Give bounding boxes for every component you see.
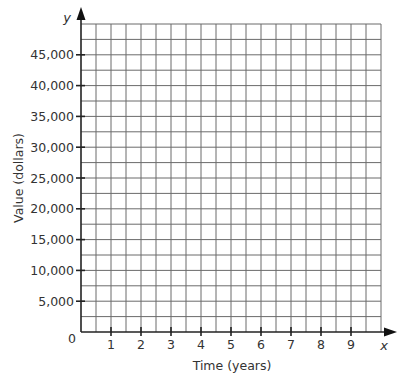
y-tick-label: 35,000 [30, 109, 74, 124]
x-tick-label: 7 [287, 337, 295, 352]
grid-lines [81, 24, 381, 332]
x-tick-label: 4 [197, 337, 205, 352]
x-tick-label: 2 [137, 337, 145, 352]
y-tick-label: 5,000 [38, 294, 74, 309]
y-tick-label: 15,000 [30, 232, 74, 247]
y-axis-title: Value (dollars) [11, 133, 26, 223]
x-tick-label: 1 [107, 337, 115, 352]
y-tick-label: 10,000 [30, 263, 74, 278]
x-axis-variable: x [379, 338, 388, 353]
x-tick-label: 3 [167, 337, 175, 352]
origin-label: 0 [68, 331, 76, 346]
x-axis-title: Time (years) [192, 358, 272, 373]
tick-marks [76, 55, 351, 336]
y-tick-label: 45,000 [30, 47, 74, 62]
x-tick-label: 8 [317, 337, 325, 352]
y-tick-label: 25,000 [30, 171, 74, 186]
y-axis-variable: y [62, 10, 71, 25]
x-tick-label: 9 [347, 337, 355, 352]
coordinate-grid-chart: 1234567895,00010,00015,00020,00025,00030… [0, 0, 406, 385]
y-tick-label: 20,000 [30, 201, 74, 216]
x-axis-arrow-icon [384, 328, 397, 337]
x-tick-label: 6 [257, 337, 265, 352]
axes [77, 7, 398, 337]
y-tick-label: 40,000 [30, 78, 74, 93]
y-tick-label: 30,000 [30, 140, 74, 155]
y-axis-arrow-icon [77, 7, 86, 20]
x-tick-label: 5 [227, 337, 235, 352]
